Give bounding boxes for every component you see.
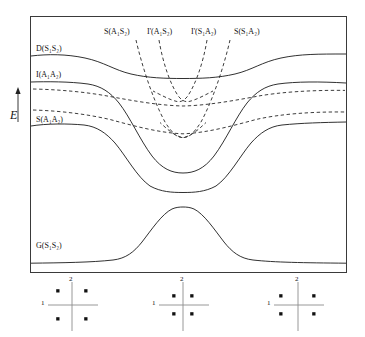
curve-label-S: S(A₁A₂) <box>36 116 63 124</box>
inset-dot <box>190 294 193 297</box>
curve-S-A1S2 <box>136 40 206 138</box>
inset-dot <box>312 312 315 315</box>
inset2-axis1-label: 1 <box>152 299 156 307</box>
top-label-S-S1A2: S(S₁A₂) <box>234 28 260 36</box>
inset1-axis1-label: 1 <box>41 299 45 307</box>
inset-dot <box>84 289 87 292</box>
curve-I <box>31 82 346 173</box>
inset-dot <box>279 312 282 315</box>
inset3-axis2-label: 2 <box>295 275 299 283</box>
curve-G <box>31 207 346 263</box>
curve-label-D: D(S₁S₂) <box>36 45 62 53</box>
inset-dot <box>172 294 175 297</box>
curve-D <box>31 54 346 79</box>
inset-equilibrium <box>159 282 209 331</box>
top-label-Iprime-A1S2: I'(A₁S₂) <box>147 28 172 36</box>
inset-dot <box>172 312 175 315</box>
inset-wide-separation <box>48 282 98 331</box>
curve-S <box>31 122 346 193</box>
energy-axis-label: E <box>10 108 17 123</box>
inset-dot <box>312 294 315 297</box>
inset-dot <box>190 312 193 315</box>
top-label-S-A1S2: S(A₁S₂) <box>104 28 130 36</box>
top-label-Iprime-S1A2: I'(S₁A₂) <box>191 28 216 36</box>
curve-label-G: G(S₁S₂) <box>36 242 62 250</box>
curve-S-S1A2 <box>160 40 230 138</box>
inset-dot <box>56 289 59 292</box>
curve-label-I: I(A₁A₂) <box>36 71 61 79</box>
inset-dot <box>279 294 282 297</box>
inset2-axis2-label: 2 <box>180 275 184 283</box>
inset3-axis1-label: 1 <box>267 299 271 307</box>
inset-dot <box>56 317 59 320</box>
curve-dashed-lower <box>33 110 345 134</box>
inset1-axis2-label: 2 <box>69 275 73 283</box>
inset-compressed <box>274 282 324 331</box>
inset-dot <box>84 317 87 320</box>
curve-dashed-upper <box>33 89 345 106</box>
